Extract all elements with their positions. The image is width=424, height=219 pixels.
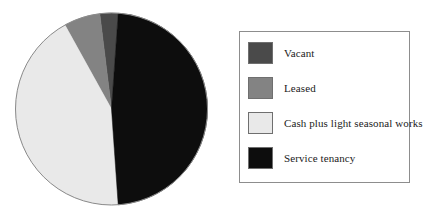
pie-slice-service-tenancy bbox=[112, 13, 208, 205]
legend-label-cash-plus-light-seasonal-works: Cash plus light seasonal works bbox=[284, 117, 423, 129]
legend-label-service-tenancy: Service tenancy bbox=[284, 152, 355, 164]
pie-chart-figure: Vacant Leased Cash plus light seasonal w… bbox=[0, 0, 424, 219]
chart-legend: Vacant Leased Cash plus light seasonal w… bbox=[239, 31, 410, 183]
legend-swatch-cash-plus-light-seasonal-works bbox=[248, 112, 273, 134]
legend-swatch-vacant bbox=[248, 42, 273, 64]
legend-label-vacant: Vacant bbox=[284, 47, 315, 59]
pie-chart-graphic bbox=[10, 8, 215, 213]
legend-item-service-tenancy: Service tenancy bbox=[248, 144, 355, 172]
pie-slices bbox=[16, 13, 208, 205]
legend-swatch-service-tenancy bbox=[248, 147, 273, 169]
legend-item-leased: Leased bbox=[248, 74, 316, 102]
legend-item-vacant: Vacant bbox=[248, 39, 315, 67]
pie-svg bbox=[10, 8, 215, 213]
legend-label-leased: Leased bbox=[284, 82, 316, 94]
legend-swatch-leased bbox=[248, 77, 273, 99]
legend-item-cash-plus-light-seasonal-works: Cash plus light seasonal works bbox=[248, 109, 423, 137]
